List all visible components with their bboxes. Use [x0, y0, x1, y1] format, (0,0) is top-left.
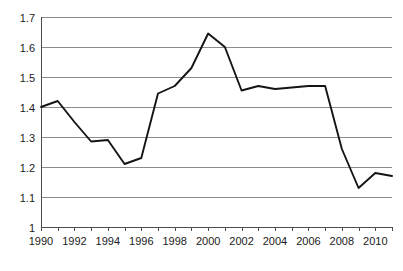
x-axis-tick-label: 1990: [29, 235, 53, 247]
x-axis-tick-label: 1998: [162, 235, 186, 247]
line-chart: 1.71.61.51.41.31.21.11 19901992199419961…: [0, 0, 403, 271]
y-axis-tick-label: 1.6: [20, 42, 35, 54]
chart-canvas: 1.71.61.51.41.31.21.11 19901992199419961…: [0, 0, 403, 271]
x-axis-tick-label: 2000: [196, 235, 220, 247]
x-axis-tick-label: 1996: [129, 235, 153, 247]
y-axis-tick-label: 1.5: [20, 72, 35, 84]
y-axis-tick-label: 1.2: [20, 162, 35, 174]
x-axis-tick-label: 2008: [330, 235, 354, 247]
x-axis-tick-label: 2010: [363, 235, 387, 247]
axis-lines-group: [42, 17, 393, 228]
gridlines-group: [41, 18, 392, 228]
data-series-line: [41, 34, 392, 189]
y-axis-tick-label: 1.7: [20, 12, 35, 24]
x-axis-tick-label: 2006: [296, 235, 320, 247]
x-axis-tick-label: 2002: [229, 235, 253, 247]
x-axis-tick-label: 2004: [263, 235, 287, 247]
x-axis-labels-group: 1990199219941996199820002002200420062008…: [29, 235, 388, 247]
x-axis-tick-label: 1994: [96, 235, 120, 247]
y-axis-tick-label: 1.3: [20, 132, 35, 144]
y-axis-tick-label: 1.1: [20, 192, 35, 204]
y-axis-labels-group: 1.71.61.51.41.31.21.11: [20, 12, 35, 234]
y-axis-tick-label: 1.4: [20, 102, 35, 114]
y-axis-tick-label: 1: [29, 222, 35, 234]
x-axis-tick-label: 1992: [62, 235, 86, 247]
